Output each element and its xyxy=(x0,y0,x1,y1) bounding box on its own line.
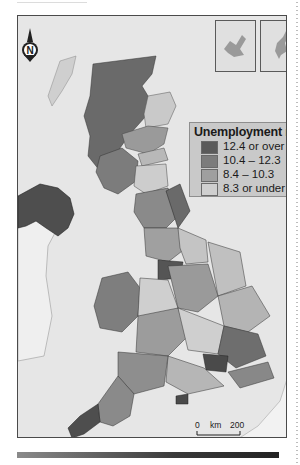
bottom-rule xyxy=(17,452,279,458)
yorkshire-region xyxy=(178,228,208,264)
scale-bar: 0 km 200 xyxy=(192,423,247,439)
legend-item: 10.4 – 12.3 xyxy=(201,155,287,169)
north-arrow-icon: N xyxy=(20,28,40,62)
legend-item: 8.4 – 10.3 xyxy=(201,169,287,183)
legend-swatch xyxy=(201,141,218,154)
western-isles-region xyxy=(48,56,76,106)
legend-label: 8.3 or under xyxy=(223,182,285,194)
uk-map xyxy=(18,16,287,438)
shetland-inset xyxy=(260,20,287,72)
strathclyde-region xyxy=(96,148,138,194)
legend-label: 10.4 – 12.3 xyxy=(223,154,281,166)
isle-of-wight-region xyxy=(176,394,188,404)
svg-text:N: N xyxy=(26,45,33,56)
map-frame: Unemployment rates 12.4 or over 10.4 – 1… xyxy=(17,15,287,438)
ireland-region xyxy=(18,216,56,361)
legend-item: 12.4 or over xyxy=(201,141,287,155)
legend-swatch xyxy=(201,183,218,196)
legend-swatch xyxy=(201,155,218,168)
grampian-region xyxy=(144,92,176,128)
legend-item: 8.3 or under xyxy=(201,183,287,197)
map-legend: Unemployment rates 12.4 or over 10.4 – 1… xyxy=(189,122,287,197)
legend-label: 12.4 or over xyxy=(223,140,284,152)
london-region xyxy=(203,354,228,372)
legend-label: 8.4 – 10.3 xyxy=(223,168,274,180)
legend-title: Unemployment rates xyxy=(194,125,287,139)
top-rule xyxy=(17,2,87,3)
dotted-margin-line xyxy=(296,2,298,465)
wales-region xyxy=(94,272,140,332)
cornwall-region xyxy=(68,404,100,438)
orkney-inset xyxy=(215,20,256,72)
legend-swatch xyxy=(201,169,218,182)
home-counties-region xyxy=(178,308,224,354)
